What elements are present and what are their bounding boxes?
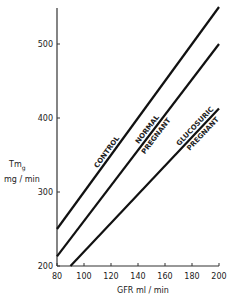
svg-text:CONTROL: CONTROL xyxy=(93,134,122,169)
y-axis-label: Tmg xyxy=(8,160,26,172)
series-label: CONTROL xyxy=(93,134,122,169)
x-tick-label: 180 xyxy=(184,272,199,281)
series-line xyxy=(57,44,219,256)
x-tick-label: 160 xyxy=(157,272,172,281)
y-tick-label: 400 xyxy=(38,114,53,123)
y-tick-label: 200 xyxy=(38,262,53,271)
chart: 80100120140160180200200300400500 CONTROL… xyxy=(0,0,235,297)
x-tick-label: 200 xyxy=(211,272,226,281)
series-labels: CONTROLNORMALPREGNANTGLUCOSURICPREGNANT xyxy=(93,105,224,169)
y-tick-label: 300 xyxy=(38,188,53,197)
x-tick-label: 80 xyxy=(52,272,62,281)
y-axis-units: mg / min xyxy=(4,175,40,184)
x-tick-label: 100 xyxy=(76,272,91,281)
x-axis-label: GFR ml / min xyxy=(117,286,169,295)
y-tick-label: 500 xyxy=(38,40,53,49)
x-tick-label: 140 xyxy=(130,272,145,281)
x-tick-label: 120 xyxy=(103,272,118,281)
